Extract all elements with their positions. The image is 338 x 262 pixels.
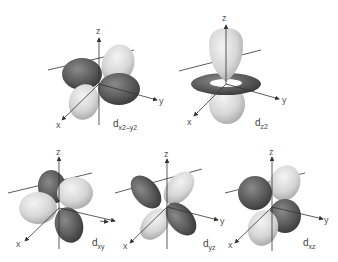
orbital-label: dyz [203, 239, 216, 251]
y-axis-label: y [159, 97, 164, 106]
x-axis-label: x [16, 240, 21, 249]
z-axis-label: z [269, 148, 274, 157]
dxz-diagram [220, 131, 338, 262]
dz2-diagram [169, 0, 338, 131]
dx2-y2-diagram [0, 0, 169, 131]
orbital-dz2: z y x dz2 [169, 0, 338, 131]
orbital-label: dxz [303, 238, 316, 250]
z-axis-label: z [96, 27, 101, 36]
orbital-dyz: z y x dyz [110, 131, 230, 262]
x-axis-label: x [187, 118, 192, 127]
y-axis-label: y [282, 96, 287, 105]
x-axis-label: x [56, 121, 61, 130]
orbital-dxy: z x dxy [0, 131, 115, 262]
orbital-label: dx2–y2 [113, 119, 137, 131]
z-axis-label: z [56, 148, 61, 157]
orbital-dx2-y2: z y x dx2–y2 [0, 0, 169, 131]
x-axis-label: x [123, 242, 128, 251]
y-axis-label: y [324, 216, 329, 225]
z-axis-label: z [222, 14, 227, 23]
orbital-label: dxy [92, 238, 105, 250]
x-axis-label: x [228, 241, 233, 250]
z-axis-label: z [164, 150, 169, 159]
orbital-dxz: z y x dxz [220, 131, 338, 262]
orbital-label: dz2 [255, 118, 268, 130]
